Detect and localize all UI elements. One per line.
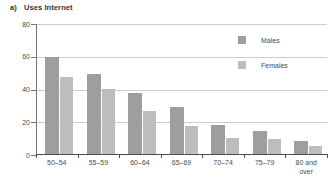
bar-males-70-74 [211, 125, 225, 154]
legend-item-females: Females [238, 61, 288, 69]
y-axis-label-40: 40 [0, 85, 30, 94]
bar-females-65-69 [185, 126, 198, 154]
x-tick-7 [327, 155, 328, 158]
males-swatch-icon [238, 36, 246, 44]
x-axis-label-55-59: 55–59 [78, 158, 120, 176]
bar-males-55-59 [87, 74, 101, 154]
x-axis-labels: 50–5455–5960–6465–6970–7475–7980 and ove… [36, 158, 327, 176]
x-axis-label-65-69: 65–69 [161, 158, 203, 176]
legend-item-males: Males [238, 36, 288, 44]
bar-females-75-79 [268, 139, 281, 154]
y-tick-20 [31, 122, 36, 123]
bar-females-70-74 [226, 138, 239, 154]
x-axis-line [36, 154, 328, 155]
legend-label-females: Females [261, 62, 288, 69]
y-tick-80 [31, 24, 36, 25]
y-axis-label-0: 0 [0, 151, 30, 160]
x-axis-label-80-and-over: 80 and over [285, 158, 327, 176]
bar-males-65-69 [170, 107, 184, 154]
bar-males-75-79 [253, 131, 267, 154]
chart-title-text: Uses Internet [24, 3, 73, 12]
gridline-40 [36, 90, 327, 91]
y-tick-60 [31, 57, 36, 58]
x-axis-label-70-74: 70–74 [202, 158, 244, 176]
plot-area: Males Females [36, 24, 327, 155]
y-axis-label-20: 20 [0, 118, 30, 127]
y-axis: 020406080 [0, 0, 30, 187]
bar-males-60-64 [128, 93, 142, 154]
y-axis-label-80: 80 [0, 20, 30, 29]
bar-males-80-and-over [294, 141, 308, 154]
bar-females-60-64 [143, 111, 156, 154]
females-swatch-icon [238, 61, 246, 69]
bar-females-50-54 [60, 77, 73, 154]
bar-females-80-and-over [309, 146, 322, 154]
y-axis-line [36, 24, 37, 155]
y-tick-40 [31, 90, 36, 91]
legend-label-males: Males [261, 37, 280, 44]
x-axis-label-60-64: 60–64 [119, 158, 161, 176]
bar-females-55-59 [102, 89, 115, 155]
x-axis-label-75-79: 75–79 [244, 158, 286, 176]
bar-chart-figure: a)Uses Internet 020406080 Males Females … [0, 0, 336, 187]
legend: Males Females [238, 36, 288, 69]
y-axis-label-60: 60 [0, 52, 30, 61]
bar-males-50-54 [45, 57, 59, 154]
x-axis-label-50-54: 50–54 [36, 158, 78, 176]
gridline-80 [36, 24, 327, 25]
